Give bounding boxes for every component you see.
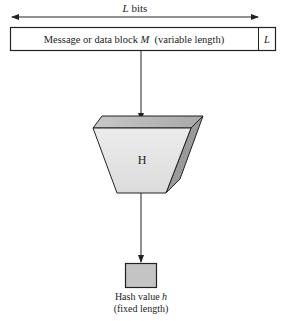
hash-value-sublabel: (fixed length) bbox=[114, 303, 169, 315]
hash-value-box bbox=[126, 264, 157, 288]
hash-function-label: H bbox=[138, 153, 147, 167]
length-field-label: L bbox=[263, 34, 270, 45]
length-label: L bits bbox=[122, 2, 148, 14]
hash-value-label: Hash value h bbox=[115, 291, 167, 302]
message-block-label: Message or data block M (variable length… bbox=[44, 34, 225, 46]
hash-diagram: L bits Message or data block M (variable… bbox=[0, 0, 285, 321]
hash-function-top-face bbox=[93, 116, 203, 128]
hash-function-block: H bbox=[93, 116, 203, 193]
